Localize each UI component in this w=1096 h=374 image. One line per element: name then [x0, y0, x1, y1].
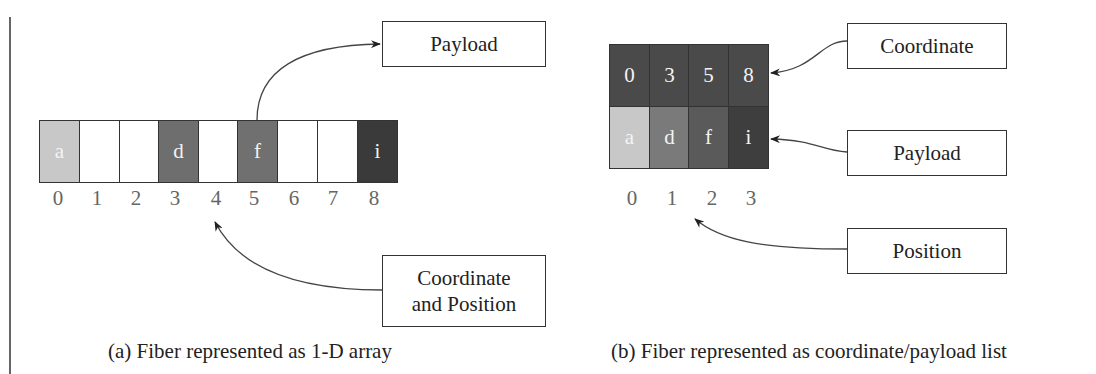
- arrow-coordinate-position: [215, 222, 382, 290]
- arrow-payload-b: [771, 139, 847, 152]
- arrow-coordinate-b: [771, 41, 847, 73]
- arrow-payload-a: [257, 44, 380, 120]
- connector-arrows: [0, 0, 1096, 374]
- arrow-position: [695, 219, 847, 249]
